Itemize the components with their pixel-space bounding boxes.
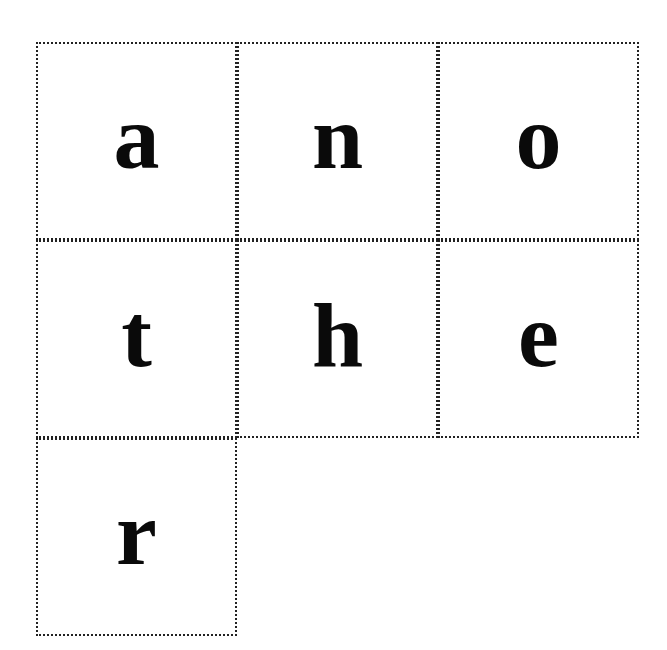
letter-tile: r xyxy=(36,438,237,636)
letter-tile: h xyxy=(237,240,438,438)
tile-letter: e xyxy=(518,289,559,381)
letter-tile-grid: a n o t h e r xyxy=(36,42,639,636)
letter-tile: n xyxy=(237,42,438,240)
letter-tile: o xyxy=(438,42,639,240)
tile-letter: a xyxy=(114,91,160,183)
tile-letter: h xyxy=(312,289,363,381)
tile-letter: o xyxy=(516,91,562,183)
letter-tile: a xyxy=(36,42,237,240)
tile-letter: r xyxy=(116,487,157,579)
letter-tile: e xyxy=(438,240,639,438)
tile-letter: n xyxy=(312,91,363,183)
letter-tile: t xyxy=(36,240,237,438)
tile-letter: t xyxy=(121,289,152,381)
